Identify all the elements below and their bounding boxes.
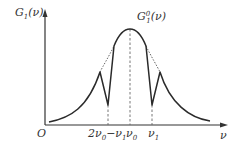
curve-label: G01(ν) [137, 10, 166, 25]
spectrum-curve [49, 29, 210, 122]
tick-label-v1: ν1 [148, 127, 159, 142]
tick-label-v0: ν0 [126, 127, 138, 142]
tick-label-2v0-v1: 2ν0−ν1 [87, 127, 127, 142]
x-axis-label: ν [220, 129, 227, 142]
origin-label: O [37, 127, 46, 140]
x-axis-arrow-icon [220, 123, 228, 128]
spectrum-diagram: G1(ν) G01(ν) O 2ν0−ν1 ν0 ν1 ν [0, 0, 239, 145]
y-axis-label: G1(ν) [15, 6, 44, 21]
